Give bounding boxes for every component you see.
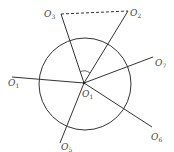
label-bottom-right: O6 bbox=[151, 132, 162, 143]
dashed-segment bbox=[61, 11, 128, 14]
radial-lines bbox=[12, 11, 153, 143]
line-to-bottom bbox=[60, 83, 84, 143]
label-top-right: O2 bbox=[130, 8, 141, 19]
line-to-right bbox=[84, 57, 153, 83]
label-bottom: O5 bbox=[61, 142, 72, 152]
angle-arc bbox=[80, 71, 90, 73]
line-to-top-right bbox=[84, 11, 128, 83]
label-right: O7 bbox=[155, 58, 166, 69]
line-to-bottom-right bbox=[84, 83, 152, 127]
label-top-left: O3 bbox=[44, 9, 55, 20]
label-center: O1 bbox=[82, 89, 93, 100]
label-left: O1 bbox=[8, 78, 19, 89]
line-to-left bbox=[12, 77, 84, 83]
center-point bbox=[83, 82, 85, 84]
geometry-diagram: O3 O2 O7 O1 O6 O5 O1 bbox=[0, 0, 174, 152]
line-to-top-left bbox=[61, 14, 84, 83]
